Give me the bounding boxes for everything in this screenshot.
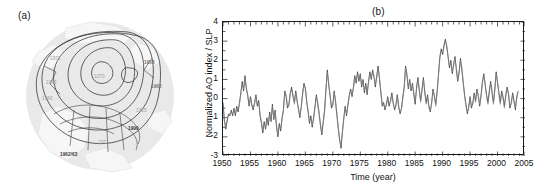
map-annotation-1962-63: 1962/63 <box>60 152 77 157</box>
y-tick-label: -1 <box>198 112 218 120</box>
panel-b: (b) Normalized AO index / SLP 43210-1-2-… <box>190 0 539 189</box>
axis-ticks <box>223 22 525 156</box>
map-annotation-1999: 1999 <box>128 126 139 131</box>
x-tick-label: 1960 <box>262 158 292 168</box>
x-tick-label: 1985 <box>399 158 429 168</box>
polar-map: 1070 1971 1956 1966 1958 1962 1955 1999 … <box>20 18 180 173</box>
map-annotation-1956: 1956 <box>46 80 57 85</box>
plot-frame <box>222 21 524 155</box>
x-tick-label: 1995 <box>454 158 484 168</box>
figure-root: (a) <box>0 0 539 189</box>
series-lines <box>223 39 518 148</box>
x-tick-label: 1970 <box>317 158 347 168</box>
y-tick-label: 2 <box>198 55 218 63</box>
y-tick-label: 1 <box>198 74 218 82</box>
panel-b-label: (b) <box>372 6 385 17</box>
time-series-plot <box>223 22 525 156</box>
x-tick-label: 1965 <box>289 158 319 168</box>
y-tick-label: -2 <box>198 131 218 139</box>
y-tick-label: 0 <box>198 93 218 101</box>
map-annotation-1958: 1958 <box>144 60 155 65</box>
map-annotation-1971a: 1971 <box>50 56 61 61</box>
x-tick-label: 2005 <box>509 158 539 168</box>
map-annotation-1955: 1955 <box>136 108 147 113</box>
y-tick-label: 3 <box>198 36 218 44</box>
x-tick-label: 1955 <box>234 158 264 168</box>
x-axis-label: Time (year) <box>222 172 524 182</box>
x-tick-label: 1975 <box>344 158 374 168</box>
map-annotation-1962: 1962 <box>151 84 162 89</box>
map-annotation-1971b: 1971 <box>98 140 109 145</box>
panel-a: (a) <box>0 0 190 189</box>
y-tick-label: 4 <box>198 17 218 25</box>
series-line <box>223 39 518 148</box>
x-tick-label: 2000 <box>482 158 512 168</box>
map-annotation-1966: 1966 <box>42 96 53 101</box>
x-tick-label: 1990 <box>427 158 457 168</box>
map-center-label: 1070 <box>94 74 105 79</box>
x-tick-label: 1980 <box>372 158 402 168</box>
x-tick-label: 1950 <box>207 158 237 168</box>
